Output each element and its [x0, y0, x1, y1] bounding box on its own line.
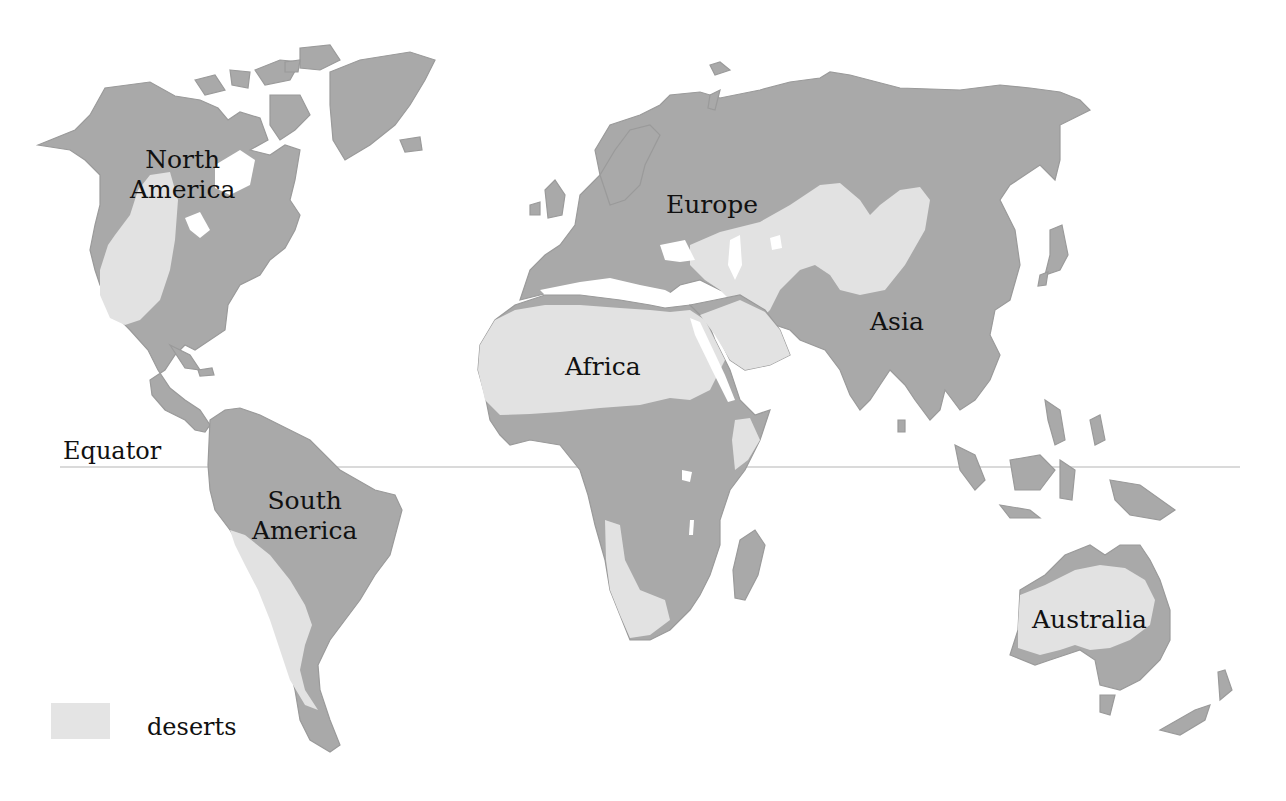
- label-australia: Australia: [1032, 605, 1147, 635]
- world-map: [0, 0, 1286, 801]
- label-europe: Europe: [666, 190, 758, 220]
- north-america-shape: [38, 45, 435, 432]
- label-south-america: South America: [252, 486, 357, 546]
- equator-label: Equator: [63, 437, 161, 465]
- label-north-america: North America: [130, 145, 235, 205]
- legend-desert-swatch: [51, 703, 110, 739]
- label-asia: Asia: [870, 307, 924, 337]
- label-africa: Africa: [565, 352, 641, 382]
- legend-label: deserts: [147, 713, 237, 741]
